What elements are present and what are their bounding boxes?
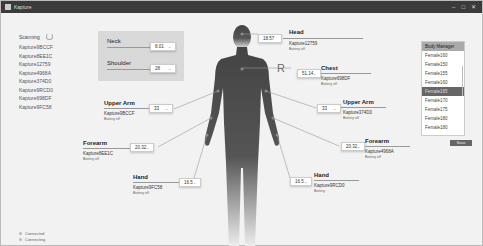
body-manager-list: Body Manager Female160 Female150 Female1… <box>421 41 465 136</box>
hand-right-label: Hand <box>314 172 329 178</box>
save-button[interactable]: Save <box>450 140 472 146</box>
list-item[interactable]: Female160 <box>422 78 464 87</box>
chest-label: Chest <box>321 65 338 71</box>
hand-right-value: 16.5 <box>295 179 304 184</box>
list-item[interactable]: Female175 <box>422 105 464 114</box>
hand-right-value-field[interactable]: 16.5⌄ <box>290 177 312 186</box>
hand-left-device-id: Kapture9FC58 <box>133 185 162 190</box>
chest-value: 51.14 <box>302 71 313 76</box>
chevron-down-icon: ⌄ <box>333 106 336 111</box>
list-item-selected[interactable]: Female165 <box>422 87 464 96</box>
hand-right-battery: Battery <box>314 189 325 193</box>
list-item[interactable]: Female160 <box>422 51 464 60</box>
divider <box>365 146 410 147</box>
list-item[interactable]: Female170 <box>422 96 464 105</box>
head-value: 18.57 <box>263 36 274 41</box>
list-item[interactable]: Female150 <box>422 60 464 69</box>
divider <box>133 182 179 183</box>
divider <box>314 180 359 181</box>
list-scrollbar[interactable] <box>462 66 463 96</box>
chevron-down-icon: ⌄ <box>304 179 307 184</box>
hand-right-device-id: Kapture9RCD0 <box>314 183 345 188</box>
forearm-right-device-id: Kapture4968A <box>365 149 394 154</box>
chevron-down-icon: ⌄ <box>165 106 168 111</box>
hand-left-label: Hand <box>133 174 148 180</box>
chest-device-id: Kapture698DF <box>321 76 350 81</box>
chevron-down-icon: ⌄ <box>193 180 196 185</box>
list-item[interactable]: Female155 <box>422 69 464 78</box>
upper-arm-left-value-field[interactable]: 33⌄ <box>149 104 173 113</box>
upper-arm-left-battery: Battery off <box>104 117 120 121</box>
list-item[interactable]: Female180 <box>422 114 464 123</box>
divider <box>104 108 149 109</box>
hand-left-battery: Battery off <box>133 191 149 195</box>
upper-arm-right-label: Upper Arm <box>343 99 374 105</box>
head-label: Head <box>289 29 304 35</box>
upper-arm-right-device-id: Kapture374D0 <box>343 110 372 115</box>
chevron-down-icon: ⌄ <box>313 71 316 76</box>
head-battery: Battery off <box>289 47 305 51</box>
forearm-right-battery: Battery off <box>365 155 381 159</box>
forearm-right-value-field[interactable]: 20.32⌄ <box>341 142 365 151</box>
divider <box>283 38 363 39</box>
divider <box>321 73 371 74</box>
chevron-down-icon: ⌄ <box>146 145 149 150</box>
connector-lines <box>1 1 483 246</box>
head-device-id: Kapture12759 <box>289 41 317 46</box>
hand-left-value: 16.5 <box>184 180 193 185</box>
upper-arm-right-value: 33 <box>322 106 327 111</box>
divider <box>83 148 130 149</box>
forearm-right-value: 20.32 <box>346 144 357 149</box>
forearm-left-device-id: Kapture8EE1C <box>83 151 113 156</box>
forearm-left-label: Forearm <box>83 140 107 146</box>
upper-arm-left-label: Upper Arm <box>104 100 135 106</box>
head-value-field[interactable]: 18.57 <box>258 34 282 43</box>
body-manager-title: Body Manager <box>422 42 464 51</box>
hand-left-value-field[interactable]: 16.5⌄ <box>179 178 201 187</box>
upper-arm-left-value: 33 <box>154 106 159 111</box>
divider <box>341 107 386 108</box>
upper-arm-left-device-id: Kapture9BCCF <box>104 111 135 116</box>
app-window: Kapture – □ ✕ Scanning Kapture9BCCF Kapt… <box>0 0 483 246</box>
upper-arm-right-battery: Battery off <box>343 116 359 120</box>
forearm-right-label: Forearm <box>365 138 389 144</box>
chest-value-field[interactable]: 51.14⌄ <box>297 69 321 78</box>
upper-arm-right-value-field[interactable]: 33⌄ <box>317 104 341 113</box>
chevron-down-icon: ⌄ <box>357 144 360 149</box>
forearm-left-value-field[interactable]: 20.32⌄ <box>130 143 154 152</box>
forearm-left-value: 20.32 <box>135 145 146 150</box>
forearm-left-battery: Battery off <box>83 157 99 161</box>
list-item[interactable]: Female180 <box>422 123 464 132</box>
chest-battery: Battery off <box>321 82 337 86</box>
